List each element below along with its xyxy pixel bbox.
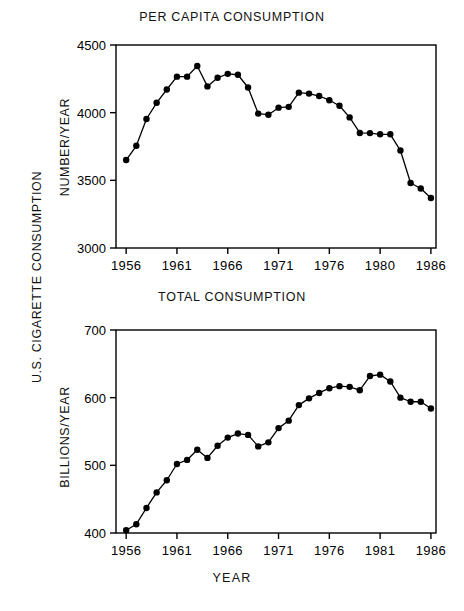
total-y-tick-label: 400 <box>84 526 106 541</box>
per-capita-data-point <box>357 130 363 136</box>
total-data-point <box>397 394 403 400</box>
per-capita-data-point <box>143 116 149 122</box>
total-data-point <box>346 384 352 390</box>
per-capita-x-tick-label: 1961 <box>162 258 193 273</box>
figure-container: U.S. CIGARETTE CONSUMPTION PER CAPITA CO… <box>0 0 464 611</box>
per-capita-data-point <box>326 97 332 103</box>
total-data-point <box>418 399 424 405</box>
total-data-point <box>143 505 149 511</box>
total-x-tick-label: 1961 <box>162 543 193 558</box>
per-capita-data-point <box>194 63 200 69</box>
per-capita-data-point <box>235 72 241 78</box>
total-x-tick-label: 1971 <box>263 543 294 558</box>
per-capita-data-point <box>225 71 231 77</box>
per-capita-data-point <box>133 143 139 149</box>
per-capita-data-point <box>407 180 413 186</box>
per-capita-data-point <box>367 130 373 136</box>
total-x-tick-label: 1956 <box>111 543 142 558</box>
panel-per-capita: PER CAPITA CONSUMPTION NUMBER/YEAR 30003… <box>0 0 464 290</box>
per-capita-y-tick-label: 4000 <box>77 106 106 121</box>
per-capita-x-tick-label: 1966 <box>212 258 243 273</box>
per-capita-data-point <box>204 83 210 89</box>
total-data-point <box>164 477 170 483</box>
total-data-point <box>255 443 261 449</box>
per-capita-plot-frame <box>116 45 436 248</box>
total-data-point <box>428 405 434 411</box>
per-capita-data-point <box>316 93 322 99</box>
total-x-tick-label: 1981 <box>365 543 396 558</box>
per-capita-data-point <box>428 195 434 201</box>
x-axis-name: YEAR <box>0 571 464 585</box>
panel-per-capita-title: PER CAPITA CONSUMPTION <box>0 10 464 24</box>
total-data-point <box>326 385 332 391</box>
per-capita-y-tick-label: 3000 <box>77 241 106 256</box>
total-data-point <box>306 395 312 401</box>
per-capita-data-point <box>184 73 190 79</box>
per-capita-x-tick-label: 1980 <box>365 258 396 273</box>
total-data-point <box>367 373 373 379</box>
per-capita-data-point <box>336 103 342 109</box>
total-data-point <box>316 390 322 396</box>
per-capita-data-point <box>153 100 159 106</box>
per-capita-series-line <box>126 66 431 198</box>
total-data-point <box>245 432 251 438</box>
total-y-tick-label: 600 <box>84 391 106 406</box>
total-data-point <box>184 457 190 463</box>
total-series-line <box>126 375 431 531</box>
total-data-point <box>214 443 220 449</box>
total-data-point <box>153 489 159 495</box>
panel-per-capita-y-axis-label: NUMBER/YEAR <box>58 42 72 252</box>
per-capita-data-point <box>255 110 261 116</box>
total-data-point <box>407 399 413 405</box>
per-capita-data-point <box>164 86 170 92</box>
panel-total: TOTAL CONSUMPTION BILLIONS/YEAR 40050060… <box>0 290 464 611</box>
total-data-point <box>357 387 363 393</box>
total-data-point <box>275 425 281 431</box>
total-data-point <box>387 378 393 384</box>
per-capita-data-point <box>418 185 424 191</box>
per-capita-data-point <box>174 73 180 79</box>
per-capita-data-point <box>306 90 312 96</box>
per-capita-data-point <box>123 157 129 163</box>
per-capita-data-point <box>346 114 352 120</box>
total-x-tick-label: 1976 <box>314 543 345 558</box>
total-data-point <box>286 417 292 423</box>
per-capita-y-tick-label: 4500 <box>77 38 106 53</box>
per-capita-x-tick-label: 1976 <box>314 258 345 273</box>
total-data-point <box>296 402 302 408</box>
per-capita-x-tick-label: 1971 <box>263 258 294 273</box>
per-capita-data-point <box>275 104 281 110</box>
per-capita-data-point <box>397 147 403 153</box>
total-y-tick-label: 500 <box>84 458 106 473</box>
per-capita-x-tick-label: 1956 <box>111 258 142 273</box>
total-data-point <box>377 371 383 377</box>
per-capita-data-point <box>377 131 383 137</box>
per-capita-y-tick-label: 3500 <box>77 173 106 188</box>
per-capita-data-point <box>286 104 292 110</box>
total-data-point <box>235 430 241 436</box>
total-data-point <box>336 383 342 389</box>
total-data-point <box>265 439 271 445</box>
per-capita-x-tick-label: 1986 <box>416 258 447 273</box>
total-x-tick-label: 1986 <box>416 543 447 558</box>
total-data-point <box>133 521 139 527</box>
per-capita-data-point <box>265 112 271 118</box>
per-capita-data-point <box>245 84 251 90</box>
total-y-tick-label: 700 <box>84 323 106 338</box>
total-data-point <box>225 434 231 440</box>
total-data-point <box>123 527 129 533</box>
total-data-point <box>204 455 210 461</box>
per-capita-data-point <box>387 131 393 137</box>
chart-total: 4005006007001956196119661971197619811986 <box>0 298 464 578</box>
total-data-point <box>194 447 200 453</box>
total-data-point <box>174 461 180 467</box>
total-x-tick-label: 1966 <box>212 543 243 558</box>
per-capita-data-point <box>214 75 220 81</box>
per-capita-data-point <box>296 89 302 95</box>
